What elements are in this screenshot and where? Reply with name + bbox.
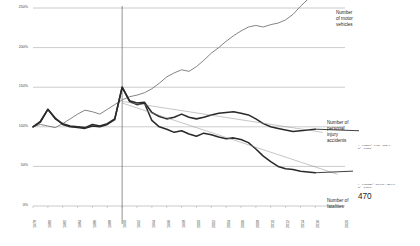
annotation-motor-vehicles: Number of motor vehicles [336, 10, 353, 28]
trendline-equation-fatalities: y = 0.00082x² - 3.5447x + 2544.0R² = 3.3… [358, 183, 395, 190]
data-label-fatalities-470: 470 [358, 193, 372, 201]
y-axis-label-100: 100% [6, 125, 28, 129]
chart-container: 250% 200% 150% 100% 50% 0% 1978198019821… [0, 0, 420, 246]
annotation-injury-accidents: Number of personal injury accidents [327, 120, 348, 144]
trendline-equation-injury-accidents: y = 0.0266x² - 1.03x - 1789.0R² = 1.0873 [358, 144, 390, 151]
series-line-number-of-motor-vehicles [33, 0, 315, 128]
x-axis-label-2010: 2010 [272, 220, 276, 228]
y-axis-label-50: 50% [6, 164, 28, 168]
y-axis-label-0: 0% [6, 204, 28, 208]
annotation-fatalities: Number of fatalities [327, 198, 348, 210]
x-axis-label-1982: 1982 [64, 220, 68, 228]
trendline-fatalities [122, 103, 337, 174]
x-axis-label-1984: 1984 [79, 220, 83, 228]
x-axis-label-1998: 1998 [183, 220, 187, 228]
y-axis-label-200: 200% [6, 46, 28, 50]
x-axis-label-1996: 1996 [168, 220, 172, 228]
x-axis-label-2020: 2020 [346, 220, 350, 228]
x-axis-label-2012: 2012 [287, 220, 291, 228]
x-axis-label-1994: 1994 [153, 220, 157, 228]
x-axis-label-1988: 1988 [109, 220, 113, 228]
x-axis-label-1986: 1986 [94, 220, 98, 228]
x-axis-label-2016: 2016 [317, 220, 321, 228]
x-axis-label-2000: 2000 [198, 220, 202, 228]
trendline-injury-accidents [122, 101, 323, 132]
y-axis-label-250: 250% [6, 6, 28, 10]
x-axis-label-2008: 2008 [257, 220, 261, 228]
x-axis-label-2006: 2006 [242, 220, 246, 228]
series-line-number-of-fatalities [33, 87, 315, 173]
x-axis-label-1992: 1992 [138, 220, 142, 228]
x-axis-label-2004: 2004 [228, 220, 232, 228]
leader-fatalities [315, 171, 353, 173]
x-axis-label-1980: 1980 [49, 220, 53, 228]
x-axis-label-2002: 2002 [213, 220, 217, 228]
y-axis-label-150: 150% [6, 85, 28, 89]
x-axis-label-2014: 2014 [302, 220, 306, 228]
x-axis-label-1990: 1990 [124, 220, 128, 228]
index-line-chart [0, 0, 420, 246]
x-axis-label-1978: 1978 [34, 220, 38, 228]
